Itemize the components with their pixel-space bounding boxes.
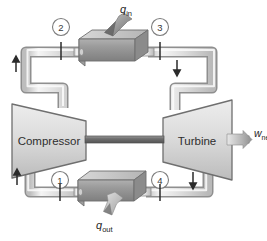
turbine-label: Turbine <box>178 135 217 147</box>
heater-front-face <box>79 39 135 61</box>
heater-inlet-port <box>79 49 83 56</box>
brayton-cycle-diagram: Compressor Turbine wnet qin <box>0 0 267 241</box>
state-2-label: 2 <box>58 22 63 33</box>
state-1-label: 1 <box>57 175 62 186</box>
shaft <box>85 136 164 143</box>
cooler-outlet-port <box>78 189 82 196</box>
compressor-label: Compressor <box>18 135 81 147</box>
shaft-bar <box>85 136 164 143</box>
state-3-label: 3 <box>157 22 162 33</box>
cooler-front-face <box>78 180 134 201</box>
state-4-label: 4 <box>157 175 162 186</box>
